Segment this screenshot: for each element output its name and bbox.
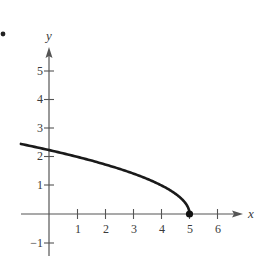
- y-axis-label: y: [44, 28, 52, 43]
- x-tick-labels: 1 2 3 4 5 6: [75, 222, 221, 236]
- svg-text:−1: −1: [30, 236, 43, 250]
- list-bullet: [1, 32, 6, 37]
- svg-text:3: 3: [131, 222, 137, 236]
- x-axis-label: x: [247, 206, 254, 221]
- function-graph: x y 1 2 3 4 5 6 −1 1 2 3 4 5: [0, 0, 261, 277]
- svg-text:4: 4: [37, 92, 43, 106]
- svg-text:1: 1: [75, 222, 81, 236]
- x-axis: x: [21, 206, 254, 221]
- svg-text:5: 5: [37, 64, 43, 78]
- svg-text:2: 2: [37, 149, 43, 163]
- y-axis: y: [44, 28, 53, 256]
- svg-text:2: 2: [103, 222, 109, 236]
- svg-text:3: 3: [37, 121, 43, 135]
- endpoint-dot: [186, 210, 193, 217]
- svg-text:1: 1: [37, 178, 43, 192]
- svg-text:5: 5: [187, 222, 193, 236]
- y-tick-labels: −1 1 2 3 4 5: [30, 64, 43, 250]
- function-curve: [21, 144, 190, 214]
- svg-text:4: 4: [159, 222, 165, 236]
- svg-text:6: 6: [215, 222, 221, 236]
